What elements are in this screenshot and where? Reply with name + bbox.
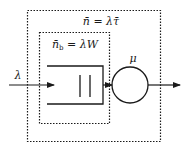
server-circle [112, 67, 148, 103]
inner-label-main: n̄ [52, 38, 59, 51]
queue-diagram: n̄ = λτ̄ n̄b = λW λ μ [0, 0, 187, 150]
outer-box-label: n̄ = λτ̄ [83, 15, 120, 28]
arrival-rate-label: λ [14, 69, 22, 82]
outer-system-box [28, 11, 161, 142]
queue-buffer [47, 66, 103, 104]
service-rate-label: μ [129, 52, 136, 65]
inner-label-rest: = λW [64, 38, 100, 51]
inner-box-label: n̄b = λW [52, 38, 100, 52]
